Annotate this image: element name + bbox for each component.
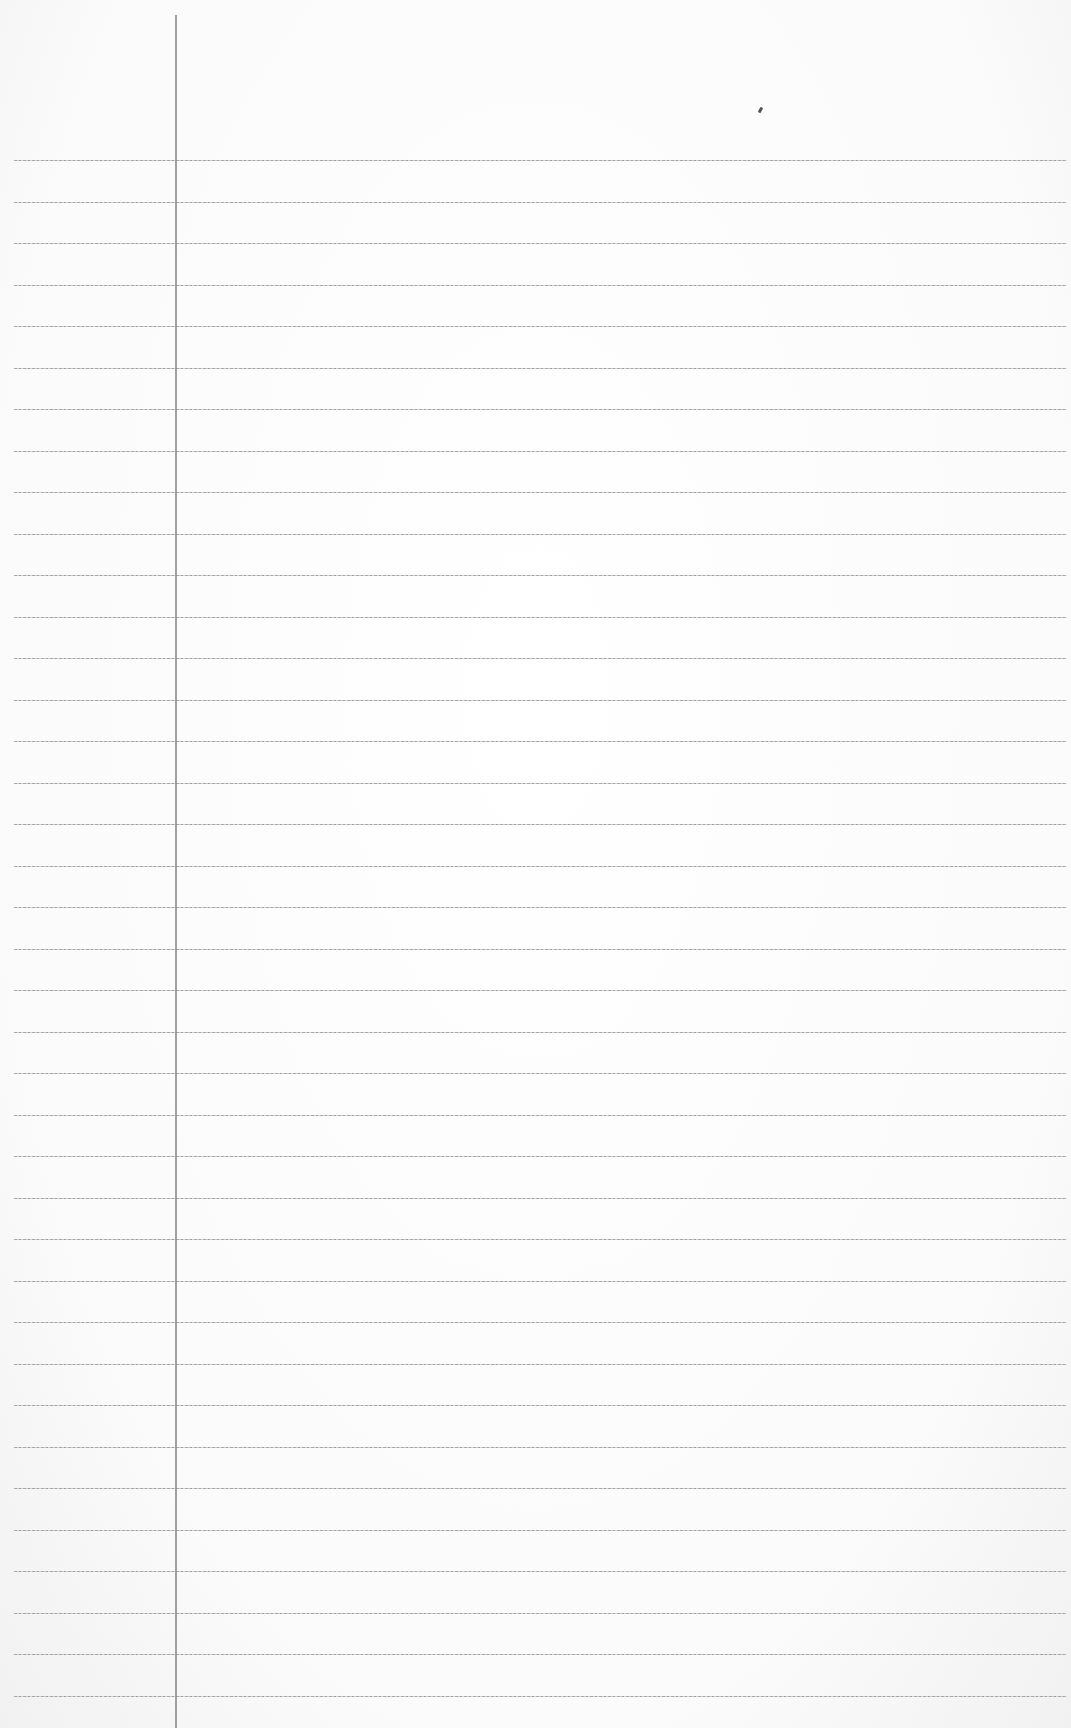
- ruled-line: [14, 700, 1067, 701]
- ruled-line: [14, 1032, 1067, 1033]
- ruled-line: [14, 1405, 1067, 1406]
- ruled-line: [14, 990, 1067, 991]
- ruled-line: [14, 202, 1067, 203]
- ruled-line: [14, 741, 1067, 742]
- ruled-line: [14, 1156, 1067, 1157]
- margin-line: [175, 15, 177, 1728]
- ruled-line: [14, 617, 1067, 618]
- ruled-line: [14, 534, 1067, 535]
- ruled-line: [14, 949, 1067, 950]
- ruled-line: [14, 1696, 1067, 1697]
- ruled-line: [14, 368, 1067, 369]
- notebook-page: [0, 0, 1071, 1728]
- ruled-line: [14, 1239, 1067, 1240]
- ruled-line: [14, 1281, 1067, 1282]
- ruled-line: [14, 1364, 1067, 1365]
- ruled-line: [14, 866, 1067, 867]
- ruled-line: [14, 907, 1067, 908]
- ruled-line: [14, 451, 1067, 452]
- ruled-line: [14, 285, 1067, 286]
- ruled-line: [14, 243, 1067, 244]
- ruled-line: [14, 1073, 1067, 1074]
- ruled-line: [14, 1530, 1067, 1531]
- ruled-line: [14, 783, 1067, 784]
- ruled-line: [14, 575, 1067, 576]
- ruled-line: [14, 1115, 1067, 1116]
- ruled-line: [14, 1654, 1067, 1655]
- ruled-line: [14, 1322, 1067, 1323]
- ruled-line: [14, 824, 1067, 825]
- ruled-line: [14, 1571, 1067, 1572]
- ruled-line: [14, 1613, 1067, 1614]
- ruled-line: [14, 1447, 1067, 1448]
- ruled-line: [14, 658, 1067, 659]
- ruled-line: [14, 326, 1067, 327]
- ruled-line: [14, 492, 1067, 493]
- ruled-line: [14, 160, 1067, 161]
- ruled-line: [14, 1488, 1067, 1489]
- paper-speck: [758, 107, 764, 114]
- ruled-line: [14, 1198, 1067, 1199]
- ruled-line: [14, 409, 1067, 410]
